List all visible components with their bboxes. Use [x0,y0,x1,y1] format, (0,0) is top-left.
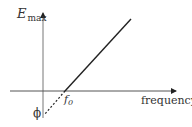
y-axis-label-main: E [17,6,27,21]
threshold-frequency-label: f0 [64,93,73,106]
x-axis-label: frequency [141,94,192,107]
extrapolated-dashed-line [44,91,65,115]
y-axis-label-sub: max [28,13,47,23]
work-function-label: ϕ [33,106,41,120]
threshold-label-sub: 0 [68,98,73,107]
y-axis-label: Emax [17,6,46,21]
energy-line [65,19,131,91]
